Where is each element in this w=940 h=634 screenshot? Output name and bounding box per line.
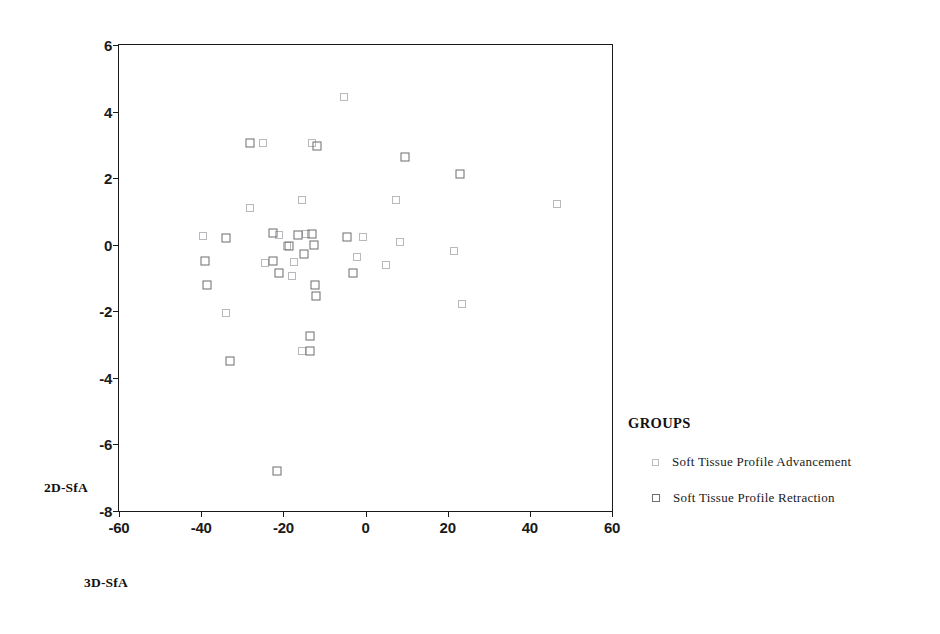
data-point: [225, 357, 234, 366]
x-tick-mark: [448, 511, 449, 517]
data-point: [306, 347, 315, 356]
x-tick-label: -40: [191, 519, 212, 536]
y-tick-mark: [113, 112, 119, 113]
data-point: [340, 93, 348, 101]
data-point: [298, 196, 306, 204]
legend-item-advancement: Soft Tissue Profile Advancement: [652, 454, 928, 470]
y-tick-label: 2: [104, 170, 112, 187]
data-point: [259, 139, 267, 147]
data-point: [306, 332, 315, 341]
data-point: [308, 230, 317, 239]
y-tick-mark: [113, 178, 119, 179]
y-tick-label: 6: [104, 37, 112, 54]
data-point: [312, 292, 321, 301]
y-tick-label: 0: [104, 236, 112, 253]
scatter-plot-figure: 6420-2-4-6-8-60-40-200204060 2D-SfA 3D-S…: [0, 0, 940, 634]
data-point: [458, 300, 466, 308]
x-tick-mark: [366, 511, 367, 517]
data-point: [313, 141, 322, 150]
y-tick-label: -8: [99, 503, 112, 520]
legend-title: GROUPS: [628, 415, 928, 432]
x-tick-label: -60: [109, 519, 130, 536]
legend-item-retraction: Soft Tissue Profile Retraction: [652, 490, 928, 506]
x-tick-label: 40: [522, 519, 538, 536]
data-points-layer: [119, 45, 612, 511]
legend-swatch-advancement-icon: [652, 459, 659, 466]
y-tick-mark: [113, 311, 119, 312]
x-tick-mark: [530, 511, 531, 517]
data-point: [290, 258, 298, 266]
data-point: [450, 247, 458, 255]
legend: GROUPS Soft Tissue Profile Advancement S…: [628, 415, 928, 526]
x-tick-mark: [283, 511, 284, 517]
data-point: [349, 269, 358, 278]
data-point: [285, 242, 294, 251]
y-tick-mark: [113, 444, 119, 445]
x-axis-title: 3D-SfA: [84, 575, 128, 591]
data-point: [343, 233, 352, 242]
legend-label-advancement: Soft Tissue Profile Advancement: [672, 454, 851, 470]
data-point: [201, 256, 210, 265]
data-point: [310, 241, 319, 250]
y-tick-mark: [113, 45, 119, 46]
legend-label-retraction: Soft Tissue Profile Retraction: [673, 490, 835, 506]
x-tick-label: 0: [361, 519, 369, 536]
x-tick-mark: [119, 511, 120, 517]
data-point: [275, 269, 284, 278]
data-point: [246, 139, 255, 148]
legend-swatch-retraction-icon: [652, 494, 660, 502]
y-tick-label: -6: [99, 436, 112, 453]
x-tick-mark: [201, 511, 202, 517]
y-tick-label: -4: [99, 369, 112, 386]
x-tick-mark: [612, 511, 613, 517]
y-tick-mark: [113, 245, 119, 246]
data-point: [353, 253, 361, 261]
data-point: [396, 238, 404, 246]
data-point: [553, 200, 561, 208]
y-tick-label: 4: [104, 103, 112, 120]
data-point: [269, 229, 278, 238]
data-point: [269, 257, 278, 266]
data-point: [199, 232, 207, 240]
y-axis-title: 2D-SfA: [44, 480, 88, 496]
data-point: [246, 204, 254, 212]
data-point: [311, 281, 320, 290]
x-tick-label: 20: [440, 519, 456, 536]
data-point: [222, 309, 230, 317]
y-tick-mark: [113, 378, 119, 379]
data-point: [392, 196, 400, 204]
data-point: [455, 170, 464, 179]
data-point: [288, 272, 296, 280]
y-tick-label: -2: [99, 303, 112, 320]
data-point: [359, 233, 367, 241]
data-point: [293, 231, 302, 240]
data-point: [203, 281, 212, 290]
plot-frame: 6420-2-4-6-8-60-40-200204060: [118, 44, 613, 512]
x-tick-label: -20: [273, 519, 294, 536]
x-tick-label: 60: [604, 519, 620, 536]
data-point: [382, 261, 390, 269]
data-point: [400, 152, 409, 161]
data-point: [221, 234, 230, 243]
data-point: [299, 250, 308, 259]
data-point: [273, 467, 282, 476]
